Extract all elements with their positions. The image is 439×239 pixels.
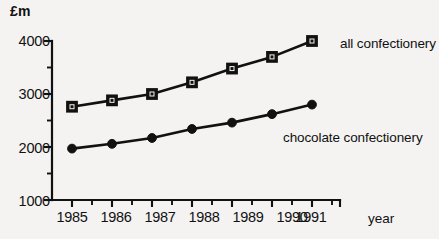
- series-all-confectionery: [68, 37, 316, 111]
- chart-container: £m 4000 3000 2000 1000 1985 1986 1987 19…: [0, 0, 439, 239]
- data-point-marker-core: [111, 99, 114, 102]
- data-point-marker-core: [71, 105, 74, 108]
- data-point-marker-core: [271, 55, 274, 58]
- data-point-marker-core: [231, 67, 234, 70]
- series-chocolate-confectionery: [68, 100, 317, 153]
- data-point-marker: [268, 110, 277, 119]
- data-point-marker: [68, 144, 77, 153]
- data-point-marker: [108, 139, 117, 148]
- data-point-marker: [148, 134, 157, 143]
- data-point-marker: [188, 125, 197, 134]
- data-point-marker-core: [151, 93, 154, 96]
- data-point-marker: [228, 118, 237, 127]
- data-point-marker: [308, 100, 317, 109]
- data-point-marker-core: [191, 81, 194, 84]
- data-series-group: [68, 37, 317, 153]
- plot-area: [0, 0, 439, 239]
- axes-group: [44, 41, 340, 207]
- data-point-marker-core: [311, 40, 314, 43]
